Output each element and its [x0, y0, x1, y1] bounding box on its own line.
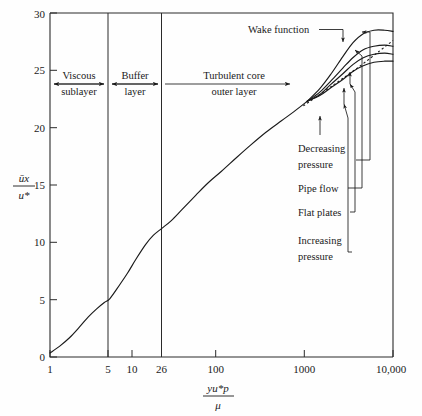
x-axis-tick-labels: 1 5 10 26 100 1000 10,000: [47, 363, 406, 375]
x-tick-label-1: 1: [47, 363, 53, 375]
annotation-label-decreasing-line1: Decreasing: [298, 143, 346, 154]
y-axis-denominator: u*: [19, 189, 31, 201]
region-label-turbulent-line2: outer layer: [211, 86, 257, 97]
annotation-wake-function: Wake function: [248, 24, 343, 42]
y-tick-label-0: 0: [40, 351, 46, 363]
curve-group: [50, 101, 307, 353]
region-label-turbulent-line1: Turbulent core: [203, 70, 265, 81]
y-axis-numerator: ūx: [19, 172, 30, 184]
region-label-buffer-line2: layer: [125, 86, 146, 97]
x-axis-ticks: [50, 350, 393, 357]
y-tick-label-10: 10: [34, 236, 46, 248]
annotation-label-increasing-line1: Increasing: [298, 235, 342, 246]
x-tick-label-10000: 10,000: [376, 363, 407, 375]
y-tick-label-20: 20: [34, 122, 46, 134]
annotation-leader-wake-function: [319, 30, 343, 43]
branch-curves: [303, 30, 393, 106]
x-tick-label-5: 5: [105, 363, 111, 375]
region-label-viscous-line2: sublayer: [61, 86, 97, 97]
y-tick-label-25: 25: [34, 64, 46, 76]
annotation-label-pipe-flow: Pipe flow: [298, 183, 339, 194]
x-tick-label-10: 10: [127, 363, 139, 375]
region-dividers: [108, 13, 162, 357]
x-axis-numerator: yu*p: [206, 382, 229, 394]
y-axis-title: ūx u*: [13, 172, 35, 201]
y-axis-ticks: [50, 13, 57, 357]
annotation-label-increasing-line2: pressure: [298, 251, 333, 262]
curve-inner-profile-main: [50, 101, 307, 353]
x-tick-label-1000: 1000: [293, 363, 316, 375]
annotation-leader-increasing: [344, 104, 352, 252]
universal-velocity-profile-chart: 0 5 10 15 20 25 30 ūx u* 1 5 10 26 100 …: [0, 0, 422, 416]
region-label-viscous-line1: Viscous: [62, 70, 95, 81]
y-tick-label-15: 15: [34, 179, 46, 191]
annotation-label-wake-function: Wake function: [248, 24, 310, 35]
curve-decreasing-pressure: [307, 30, 393, 101]
region-viscous-sublayer: Viscous sublayer: [54, 70, 104, 97]
annotation-label-decreasing-line2: pressure: [298, 159, 333, 170]
x-tick-label-26: 26: [156, 363, 168, 375]
y-tick-label-30: 30: [34, 8, 46, 20]
x-axis-denominator: μ: [214, 399, 221, 411]
y-axis-tick-labels: 0 5 10 15 20 25 30: [34, 8, 46, 364]
annotation-leader-decreasing: [356, 32, 370, 160]
x-axis-title: yu*p μ: [203, 382, 234, 411]
region-buffer-layer: Buffer layer: [112, 70, 158, 97]
annotation-leader-flat-plates: [350, 84, 355, 212]
annotation-label-flat-plates: Flat plates: [298, 207, 341, 218]
x-tick-label-100: 100: [207, 363, 224, 375]
region-label-buffer-line1: Buffer: [121, 70, 149, 81]
region-turbulent-core: Turbulent core outer layer: [165, 70, 290, 97]
y-tick-label-5: 5: [40, 294, 46, 306]
